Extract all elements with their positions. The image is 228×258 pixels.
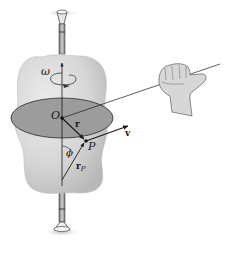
origin-label: O bbox=[51, 110, 60, 121]
v-label: v bbox=[125, 129, 130, 138]
origin-point bbox=[60, 116, 64, 120]
top-bearing bbox=[44, 9, 80, 54]
diagram-canvas bbox=[0, 0, 228, 258]
omega-label: ω bbox=[41, 66, 50, 77]
phi-label: ϕ bbox=[66, 148, 73, 158]
rp-label-sub: P bbox=[81, 165, 86, 173]
rp-label: rP bbox=[76, 162, 85, 173]
bottom-bearing bbox=[42, 192, 82, 237]
rotating-body-diagram: ω O r P v ϕ rP bbox=[0, 0, 228, 258]
point-p-label: P bbox=[88, 141, 95, 152]
r-label: r bbox=[75, 120, 80, 129]
